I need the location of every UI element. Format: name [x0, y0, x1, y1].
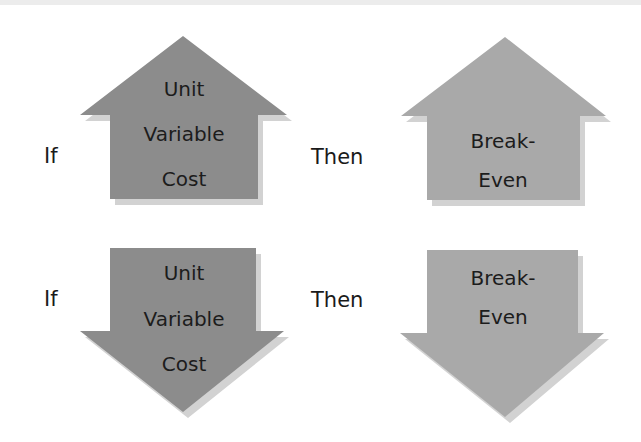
then-label: Then	[311, 290, 363, 311]
effect-text-line: Even	[478, 307, 527, 327]
effect-text-line: Even	[478, 170, 527, 190]
then-label: Then	[311, 147, 363, 168]
effect-text-line: Break-	[471, 268, 536, 288]
cause-text-line: Unit	[164, 263, 205, 283]
if-label: If	[44, 146, 58, 167]
effect-text-line: Break-	[471, 131, 536, 151]
arrow-diagram	[0, 0, 641, 442]
cause-text-line: Variable	[144, 309, 225, 329]
cause-text-line: Variable	[144, 124, 225, 144]
cause-text-line: Cost	[162, 169, 206, 189]
cause-text-line: Unit	[164, 79, 205, 99]
cause-text-line: Cost	[162, 354, 206, 374]
if-label: If	[44, 289, 58, 310]
